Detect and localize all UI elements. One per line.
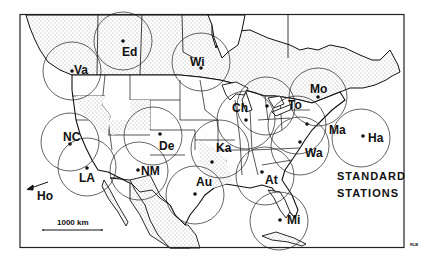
legend-title-line2: STATIONS [337,187,399,199]
station-label-ha: Ha [368,131,384,145]
station-label-nc: NC [63,130,81,144]
station-label-ch: Ch [232,101,248,115]
station-label-wa: Wa [305,146,323,160]
legend-title-line1: STANDARD [337,170,406,182]
station-map: Va Ed Wi NC LA De NM Ka Au Ch To Mo Ma H… [0,0,444,265]
station-label-la: LA [79,171,95,185]
station-label-ka: Ka [216,141,232,155]
cuba [262,232,306,246]
station-label-wi: Wi [190,55,205,69]
scale-bar [43,229,102,231]
usa-landmass [72,75,345,248]
author-credit: RLB [410,242,418,247]
station-label-mo: Mo [310,82,327,96]
station-label-va: Va [74,63,88,77]
station-label-ho: Ho [37,189,53,203]
station-label-ed: Ed [122,45,137,59]
scale-label: 1000 km [57,218,89,227]
station-label-de: De [159,139,175,153]
station-label-at: At [265,173,278,187]
station-label-mi: Mi [287,213,300,227]
station-label-au: Au [196,175,212,189]
station-label-to: To [288,98,302,112]
station-label-ma: Ma [329,123,346,137]
station-label-nm: NM [141,164,160,178]
